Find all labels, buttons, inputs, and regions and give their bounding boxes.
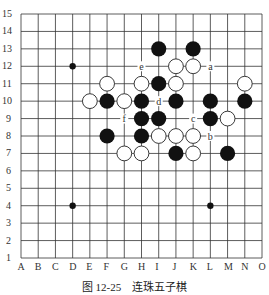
row-label: 7 [6,148,11,158]
column-label: F [104,262,110,272]
marker-label-c: c [191,113,196,124]
white-stone [237,76,252,91]
black-stone [220,146,235,161]
white-stone [220,111,235,126]
black-stone [203,94,218,109]
column-label: I [155,262,158,272]
column-label: C [52,262,59,272]
black-stone [134,128,149,143]
row-label: 6 [6,166,11,176]
black-stone [168,94,183,109]
column-label: A [18,262,25,272]
column-label: K [190,262,197,272]
row-label: 1 [6,253,11,263]
marker-label-d: d [156,96,161,107]
column-label: M [224,262,233,272]
row-label: 3 [6,218,11,228]
figure-title: 连珠五子棋 [132,281,187,293]
figure-caption: 图 12-25 连珠五子棋 [0,278,269,294]
white-stone [117,146,132,161]
white-stone [186,59,201,74]
star-point [69,63,75,69]
black-stone [99,94,114,109]
black-stone [203,111,218,126]
star-point [69,203,75,209]
white-stone [186,146,201,161]
row-label: 14 [2,26,12,36]
column-label: L [207,262,213,272]
column-label: B [35,262,42,272]
marker-label-a: a [208,61,213,72]
column-label: J [172,262,176,272]
marker-label-e: e [139,61,144,72]
white-stone [186,129,201,144]
row-label: 4 [6,201,11,211]
white-stone [169,129,184,144]
black-stone [151,76,166,91]
row-label: 12 [2,61,12,71]
white-stone [82,94,97,109]
marker-label-b: b [208,131,213,142]
black-stone [151,111,166,126]
white-stone [100,76,115,91]
black-stone [186,41,201,56]
white-stone [134,146,149,161]
row-label: 15 [2,9,12,19]
white-stone [117,94,132,109]
row-label: 13 [2,44,12,54]
column-label: E [86,262,92,272]
gomoku-board: eadfcb [0,0,269,270]
white-stone [134,76,149,91]
white-stone [169,59,184,74]
white-stone [169,76,184,91]
column-label: D [69,262,76,272]
row-label: 11 [2,79,12,89]
figure-number: 图 12-25 [82,281,121,293]
column-label: O [259,262,266,272]
row-label: 9 [6,114,11,124]
black-stone [99,128,114,143]
row-label: 10 [2,96,12,106]
row-label: 2 [6,236,11,246]
black-stone [134,94,149,109]
black-stone [237,94,252,109]
row-label: 8 [6,131,11,141]
black-stone [134,111,149,126]
black-stone [151,41,166,56]
row-label: 5 [6,183,11,193]
black-stone [168,146,183,161]
column-label: G [121,262,128,272]
column-label: N [241,262,248,272]
white-stone [151,129,166,144]
star-point [207,203,213,209]
column-label: H [138,262,145,272]
